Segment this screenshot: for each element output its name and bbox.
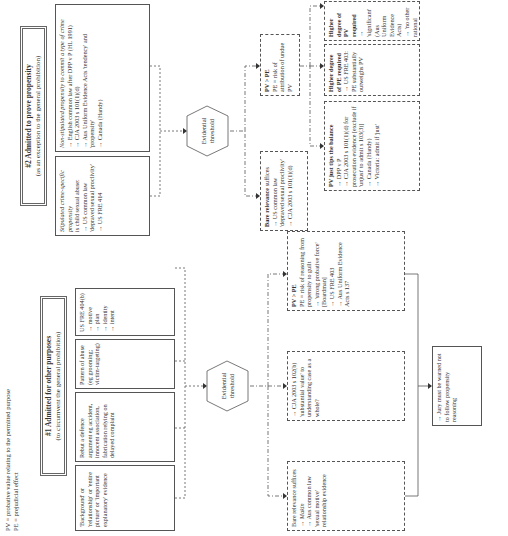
branch1-outcome-cja102: → CJA 2003 s 102(b) 'substantial value' … [287, 351, 405, 421]
diagram-stage: PV = probative value relating to the per… [0, 0, 508, 536]
branch2-threshold: Evidential threshold [187, 106, 228, 156]
branch1-box-rebut: Rebut a defence argument eg accident, in… [75, 392, 175, 462]
branch2-box-non-stipulated: Non-stipulated propensity to commit a ty… [55, 4, 150, 152]
branch2-header: #2 Admitted to prove propensity (as an e… [20, 26, 47, 206]
sub-outcome-higher-pe: Higher degree of PE required → US FRE 40… [324, 44, 420, 96]
branch1-box-pattern: Pattern of abuse (eg grooming; victim-ta… [75, 339, 175, 389]
branch1-outcome-bare: Bare relevance suffices → Makin → Aus co… [287, 461, 405, 531]
legend-pe: PE = prejudicial effect [12, 271, 20, 531]
sub-outcome-just-tips: PV just tips the balance → DPP v P → CJA… [324, 101, 420, 191]
branch2-outcome-pv-pe: PV > PE PE = risk of attribution of undu… [260, 34, 300, 96]
branch1-box-fre404b: US FRE 404(b) → motive → plan → identity… [75, 288, 175, 336]
branch2-subtitle: (as an exception to the general prohibit… [34, 56, 42, 177]
legend: PV = probative value relating to the per… [4, 271, 20, 531]
branch2-outcome-bare: Bare relevance suffices → US common law … [260, 151, 308, 231]
jury-warning-box: → Jury must be warned not to follow prop… [432, 346, 482, 426]
branch1-header: #1 Admitted for other purposes (to circu… [40, 296, 67, 476]
sub-outcome-higher-pv: Higher degree of PV required → 'signific… [324, 1, 420, 41]
branch1-box-background: 'Background' or 'relationship' or 'entir… [75, 465, 175, 531]
branch2-box-stipulated: Stipulated crime-specific propensity is … [55, 156, 150, 236]
branch2-title: #2 Admitted to prove propensity [24, 64, 33, 167]
branch1-subtitle: (to circumvent the general prohibition) [54, 332, 62, 441]
branch1-threshold: Evidential threshold [207, 361, 248, 411]
branch1-title: #1 Admitted for other purposes [44, 336, 53, 436]
branch1-outcome-pv-pe: PV > PE PE = risk of reasoning from prop… [287, 231, 405, 311]
legend-pv: PV = probative value relating to the per… [4, 271, 12, 531]
